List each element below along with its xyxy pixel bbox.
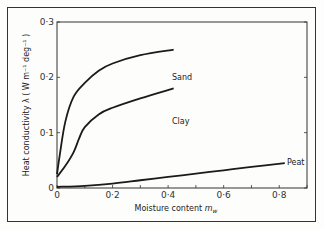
clay-label: Clay: [172, 117, 190, 126]
y-axis-label: Heat conductivity λ ( W m⁻¹ deg⁻¹ ): [22, 34, 31, 177]
sand-line: [57, 50, 174, 175]
y-tick-label: 0·2: [40, 72, 54, 82]
x-tick-label: 0·4: [161, 190, 176, 200]
data-lines: [57, 50, 285, 187]
x-tick-label: 0·6: [217, 190, 232, 200]
axes: 00·20·40·60·800·10·20·3: [40, 17, 307, 200]
peat-label: Peat: [287, 158, 305, 167]
line-chart: 00·20·40·60·800·10·20·3 Moisture content…: [0, 0, 324, 230]
y-tick-label: 0: [48, 183, 54, 193]
x-tick-label: 0: [54, 190, 60, 200]
peat-line: [57, 163, 285, 187]
clay-line: [57, 88, 174, 177]
y-tick-label: 0·3: [40, 17, 54, 27]
x-tick-label: 0·8: [272, 190, 287, 200]
x-axis-label: Moisture content mw: [135, 204, 218, 214]
plot-area: [57, 22, 307, 188]
sand-label: Sand: [172, 73, 192, 82]
y-tick-label: 0·1: [40, 128, 54, 138]
x-tick-label: 0·2: [105, 190, 119, 200]
